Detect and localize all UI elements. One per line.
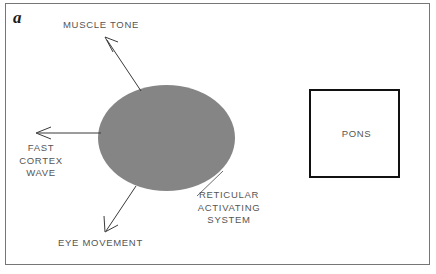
label-eye-movement: EYE MOVEMENT <box>58 237 143 250</box>
figure-panel: a MUSCLE TONE FAST CORTEX WAVE EYE MOVEM… <box>0 0 436 274</box>
reticular-activating-system-ellipse <box>98 85 235 191</box>
pons-box: PONS <box>309 89 400 178</box>
label-muscle-tone: MUSCLE TONE <box>63 19 139 32</box>
pons-label: PONS <box>311 128 402 139</box>
panel-letter: a <box>13 9 22 26</box>
label-fast-cortex-wave: FAST CORTEX WAVE <box>5 142 77 180</box>
label-reticular-activating-system: RETICULAR ACTIVATING SYSTEM <box>185 189 273 227</box>
